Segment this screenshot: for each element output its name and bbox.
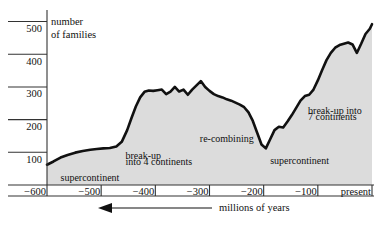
x-tick-label-present: present [311, 186, 371, 197]
x-tick-label--300: −300 [149, 186, 209, 197]
x-tick-label--200: −200 [203, 186, 263, 197]
y-axis-title-line2: of families [51, 29, 96, 42]
annotation-supercontinent-left: supercontinent [61, 172, 120, 184]
x-tick-label--400: −400 [94, 186, 154, 197]
chart-container: number of families millions of years 100… [0, 0, 380, 225]
x-axis-units-label: millions of years [219, 202, 290, 213]
annotation-supercontinent-right: supercontinent [270, 155, 329, 167]
annotation-recombining: re-combining [200, 133, 254, 145]
y-tick-label-500: 500 [8, 23, 42, 34]
x-tick-label--500: −500 [40, 186, 100, 197]
annotation-breakup-4-line2: into 4 continents [126, 156, 193, 168]
y-tick-label-400: 400 [8, 56, 42, 67]
y-axis-title-line1: number [51, 16, 83, 29]
y-tick-label-300: 300 [8, 88, 42, 99]
annotation-breakup-7-line2: 7 continents [308, 111, 357, 123]
x-tick-label--600: −600 [0, 186, 46, 197]
y-tick-marks [8, 22, 47, 153]
y-tick-label-100: 100 [8, 154, 42, 165]
x-tick-label--100: −100 [257, 186, 317, 197]
y-tick-label-200: 200 [8, 121, 42, 132]
time-direction-arrow [98, 203, 212, 213]
